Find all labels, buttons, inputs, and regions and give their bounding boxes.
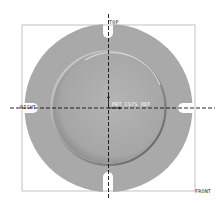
datum-label-front[interactable]: FRONT — [195, 188, 211, 194]
datum-label-top[interactable]: TOP — [109, 19, 119, 25]
csys-label[interactable]: PRT_CSYS_DEF — [112, 101, 151, 107]
part-model[interactable] — [0, 0, 222, 204]
datum-label-right[interactable]: RIGHT — [20, 104, 36, 110]
model-viewport[interactable]: TOP RIGHT FRONT PRT_CSYS_DEF — [0, 0, 222, 204]
